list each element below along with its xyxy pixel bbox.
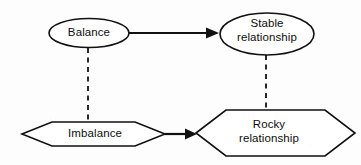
node-imbalance[interactable] — [22, 122, 165, 146]
arrow-head-icon-balance-to-stable — [206, 28, 219, 39]
node-rocky-relationship[interactable] — [196, 110, 355, 156]
arrow-head-icon-imbalance-to-rocky — [185, 129, 197, 140]
diagram-canvas — [0, 0, 361, 165]
relationship-diagram: Balance Stable relationship Imbalance Ro… — [0, 0, 361, 165]
node-balance[interactable] — [49, 19, 129, 48]
node-stable-relationship[interactable] — [220, 13, 314, 55]
